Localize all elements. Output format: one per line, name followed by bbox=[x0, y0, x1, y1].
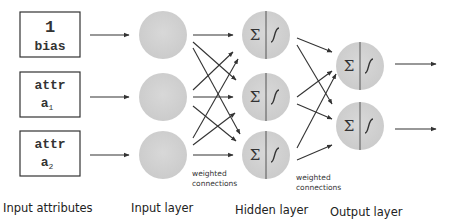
bias-label: bias bbox=[34, 39, 65, 54]
weighted-connections-label-1a: weighted bbox=[192, 169, 227, 178]
input-attribute-box-bias: 1 bias bbox=[20, 12, 80, 57]
sum-icon: Σ bbox=[250, 26, 261, 44]
sum-icon: Σ bbox=[250, 146, 261, 164]
neural-network-diagram: 1 bias attr a1 attr a2 weig bbox=[0, 0, 452, 222]
input-node bbox=[139, 131, 187, 179]
hidden-node: Σ bbox=[242, 11, 290, 59]
label-input-attributes: Input attributes bbox=[3, 201, 93, 215]
input-attribute-box-a1: attr a1 bbox=[20, 72, 80, 117]
hidden-node: Σ bbox=[242, 73, 290, 121]
output-node: Σ bbox=[336, 42, 384, 90]
input-attribute-box-a2: attr a2 bbox=[20, 131, 80, 176]
input-node bbox=[139, 11, 187, 59]
weighted-connections-label-2b: connections bbox=[296, 183, 341, 192]
hidden-layer-nodes: Σ Σ Σ bbox=[242, 11, 290, 179]
output-layer-nodes: Σ Σ bbox=[336, 42, 384, 150]
weighted-connections-label-1b: connections bbox=[192, 179, 237, 188]
input-layer-nodes bbox=[139, 11, 187, 179]
label-output-layer: Output layer bbox=[330, 205, 403, 219]
label-hidden-layer: Hidden layer bbox=[235, 203, 309, 217]
output-arrows bbox=[395, 64, 436, 129]
hidden-node: Σ bbox=[242, 131, 290, 179]
hidden-to-output-connections bbox=[297, 38, 336, 160]
sum-icon: Σ bbox=[344, 57, 355, 75]
sum-icon: Σ bbox=[344, 117, 355, 135]
bias-value: 1 bbox=[45, 18, 55, 37]
label-input-layer: Input layer bbox=[131, 201, 194, 215]
attr-a2-label: attr bbox=[34, 137, 65, 152]
input-to-hidden-connections bbox=[193, 35, 240, 155]
weighted-connections-label-2a: weighted bbox=[296, 173, 331, 182]
attr-a1-label: attr bbox=[34, 78, 65, 93]
attribute-to-input-arrows bbox=[90, 35, 129, 155]
sum-icon: Σ bbox=[250, 88, 261, 106]
output-node: Σ bbox=[336, 102, 384, 150]
input-node bbox=[139, 73, 187, 121]
